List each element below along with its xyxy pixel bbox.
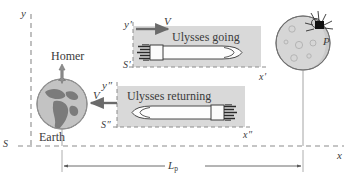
- proper-length-label: Lp: [168, 160, 178, 173]
- proper-length-subscript: p: [174, 164, 178, 173]
- frame-Sdoubleprime-y-label: y″: [102, 80, 112, 91]
- planet-label: P: [323, 36, 330, 47]
- frame-Sprime-label: S′: [123, 60, 131, 70]
- relativity-figure: y S x y′ S′ x′ y″ S″ x″ V V Ulysses goin…: [0, 0, 350, 188]
- rocket-right-icon: [137, 45, 242, 60]
- proper-length-dimension: [62, 150, 303, 172]
- caption-ulysses-going: Ulysses going: [172, 31, 240, 43]
- frame-S-label: S: [3, 139, 8, 149]
- rocket-left-icon: [132, 105, 237, 120]
- velocity-label-outbound: V: [164, 16, 171, 27]
- caption-ulysses-returning: Ulysses returning: [127, 90, 211, 102]
- observer-label: Homer: [51, 50, 84, 62]
- frame-Sprime-x-label: x′: [259, 72, 267, 82]
- frame-Sprime-y-label: y′: [124, 19, 132, 30]
- frame-S-y-label: y: [21, 8, 26, 19]
- frame-S-x-label: x: [337, 150, 342, 161]
- earth-label: Earth: [39, 131, 65, 143]
- standing-person-icon: [59, 64, 66, 84]
- frame-Sdoubleprime-x-label: x″: [243, 130, 253, 140]
- velocity-label-inbound: V: [93, 90, 100, 101]
- earth-globe-icon: [37, 79, 87, 129]
- frame-Sdoubleprime-label: S″: [101, 120, 111, 130]
